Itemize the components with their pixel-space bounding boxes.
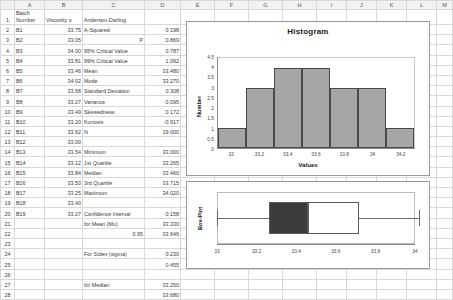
cell-statistic-value[interactable]: 0.158 — [145, 208, 181, 218]
cell-statistic-label[interactable]: 3rd Quartile — [83, 177, 145, 187]
cell-batch-number[interactable]: B18 — [15, 198, 45, 208]
row-header[interactable]: 14 — [1, 147, 15, 157]
cell-statistic-label[interactable]: Kurtosis — [83, 116, 145, 126]
cell-empty[interactable] — [437, 177, 453, 187]
cell-empty[interactable] — [437, 259, 453, 269]
cell-empty[interactable] — [437, 65, 453, 75]
column-header-d[interactable]: D — [145, 1, 181, 10]
row-header[interactable]: 13 — [1, 137, 15, 147]
cell-empty[interactable] — [437, 116, 453, 126]
cell-viscosity[interactable]: 33.40 — [45, 198, 83, 208]
cell-viscosity[interactable] — [45, 218, 83, 228]
cell-viscosity[interactable]: 33.50 — [45, 177, 83, 187]
cell-batch-number[interactable] — [15, 279, 45, 289]
cell-statistic-value[interactable]: 33.460 — [145, 167, 181, 177]
cell-statistic-value[interactable]: 33.646 — [145, 228, 181, 238]
cell-statistic-value[interactable]: 33.270 — [145, 75, 181, 85]
row-header[interactable]: 8 — [1, 86, 15, 96]
cell-empty[interactable] — [317, 269, 347, 279]
cell-statistic-value[interactable] — [145, 269, 181, 279]
cell-empty[interactable] — [347, 269, 377, 279]
cell-empty[interactable] — [437, 45, 453, 55]
cell-statistic-label[interactable] — [83, 137, 145, 147]
cell-statistic-label[interactable]: for Mean (Mu) — [83, 218, 145, 228]
cell-empty[interactable] — [437, 228, 453, 238]
column-header-f[interactable]: F — [215, 1, 249, 10]
cell-statistic-label[interactable] — [83, 269, 145, 279]
cell-batch-number[interactable]: B10 — [15, 116, 45, 126]
cell-d1[interactable] — [145, 10, 181, 25]
cell-empty[interactable] — [407, 289, 437, 299]
cell-statistic-label[interactable]: 99% Critical Value — [83, 55, 145, 65]
cell-viscosity[interactable]: 33.20 — [45, 116, 83, 126]
cell-statistic-value[interactable]: 0.230 — [145, 249, 181, 259]
cell-batch-number[interactable]: B6 — [15, 75, 45, 85]
row-header[interactable]: 28 — [1, 289, 15, 299]
row-header[interactable]: 9 — [1, 96, 15, 106]
cell-viscosity[interactable]: 33.46 — [45, 65, 83, 75]
cell-batch-number[interactable]: B9 — [15, 106, 45, 116]
cell-viscosity[interactable]: 34.00 — [45, 45, 83, 55]
table-row[interactable]: 2833.680 — [1, 289, 453, 299]
cell-statistic-label[interactable]: 0.95 — [83, 228, 145, 238]
cell-statistic-value[interactable]: 33.680 — [145, 289, 181, 299]
cell-viscosity[interactable] — [45, 269, 83, 279]
corner-cell[interactable] — [1, 1, 15, 10]
row-header[interactable]: 20 — [1, 208, 15, 218]
cell-empty[interactable] — [215, 279, 249, 289]
cell-empty[interactable] — [437, 10, 453, 25]
cell-statistic-value[interactable]: 34.020 — [145, 188, 181, 198]
cell-empty[interactable] — [437, 147, 453, 157]
cell-viscosity[interactable] — [45, 259, 83, 269]
cell-batch-number[interactable] — [15, 259, 45, 269]
cell-empty[interactable] — [437, 269, 453, 279]
cell-empty[interactable] — [249, 279, 283, 289]
cell-empty[interactable] — [437, 86, 453, 96]
cell-viscosity[interactable]: 33.68 — [45, 86, 83, 96]
cell-batch-number[interactable]: B1 — [15, 25, 45, 35]
row-header[interactable]: 1 — [1, 10, 15, 25]
cell-empty[interactable] — [437, 137, 453, 147]
cell-empty[interactable] — [437, 289, 453, 299]
cell-empty[interactable] — [437, 75, 453, 85]
column-header-m[interactable]: M — [437, 1, 453, 10]
cell-batch-number[interactable]: B7 — [15, 86, 45, 96]
cell-statistic-value[interactable]: 0.787 — [145, 45, 181, 55]
column-header-k[interactable]: K — [377, 1, 407, 10]
cell-statistic-value[interactable]: 0.455 — [145, 259, 181, 269]
column-header-i[interactable]: I — [317, 1, 347, 10]
cell-empty[interactable] — [437, 35, 453, 45]
box-plot-chart[interactable]: Box-Plot 3333.233.433.633.834 — [186, 181, 430, 269]
cell-empty[interactable] — [437, 208, 453, 218]
cell-statistic-value[interactable]: 0.095 — [145, 96, 181, 106]
column-header-c[interactable]: C — [83, 1, 145, 10]
cell-empty[interactable] — [377, 269, 407, 279]
cell-statistic-label[interactable] — [83, 259, 145, 269]
cell-viscosity[interactable]: 34.02 — [45, 75, 83, 85]
cell-empty[interactable] — [283, 269, 317, 279]
cell-b1[interactable]: Viscosity o — [45, 10, 83, 25]
cell-statistic-label[interactable] — [83, 289, 145, 299]
row-header[interactable]: 24 — [1, 249, 15, 259]
cell-empty[interactable] — [181, 269, 215, 279]
cell-empty[interactable] — [377, 289, 407, 299]
cell-batch-number[interactable]: B4 — [15, 55, 45, 65]
cell-viscosity[interactable]: 33.49 — [45, 106, 83, 116]
cell-statistic-value[interactable]: 33.250 — [145, 279, 181, 289]
cell-statistic-value[interactable]: -0.917 — [145, 116, 181, 126]
cell-empty[interactable] — [437, 188, 453, 198]
cell-statistic-label[interactable] — [83, 238, 145, 248]
column-header-l[interactable]: L — [407, 1, 437, 10]
row-header[interactable]: 23 — [1, 238, 15, 248]
cell-statistic-value[interactable] — [145, 137, 181, 147]
row-header[interactable]: 22 — [1, 228, 15, 238]
cell-empty[interactable] — [437, 238, 453, 248]
cell-viscosity[interactable]: 33.27 — [45, 96, 83, 106]
cell-empty[interactable] — [249, 289, 283, 299]
cell-statistic-value[interactable]: 0.198 — [145, 25, 181, 35]
cell-viscosity[interactable] — [45, 289, 83, 299]
cell-viscosity[interactable]: 33.81 — [45, 55, 83, 65]
cell-empty[interactable] — [437, 55, 453, 65]
cell-statistic-label[interactable] — [83, 198, 145, 208]
histogram-chart[interactable]: Histogram Number 00.511.522.533.544.5 33… — [186, 21, 430, 176]
